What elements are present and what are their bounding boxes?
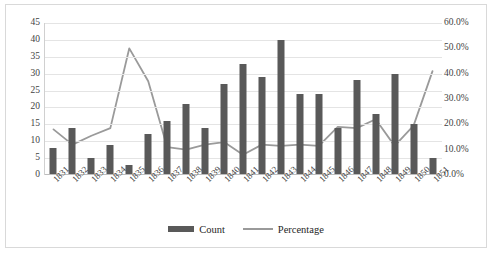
y-axis-right-tick: 40.0% — [444, 69, 469, 79]
bar — [239, 64, 246, 175]
bar-slot — [252, 23, 271, 175]
bar — [391, 74, 398, 175]
bar-slot — [120, 23, 139, 175]
bar — [296, 94, 303, 175]
legend-item-percentage: Percentage — [243, 224, 324, 235]
bar-slot — [44, 23, 63, 175]
bar — [277, 40, 284, 175]
bar-slot — [309, 23, 328, 175]
bar-slot — [423, 23, 442, 175]
bar-slot — [234, 23, 253, 175]
bar — [315, 94, 322, 175]
bar-slot — [366, 23, 385, 175]
bar — [258, 77, 265, 175]
chart-legend: Count Percentage — [6, 221, 486, 237]
legend-label-percentage: Percentage — [278, 224, 324, 235]
bar-slot — [328, 23, 347, 175]
y-axis-right-tick: 30.0% — [444, 94, 469, 104]
bar-slot — [385, 23, 404, 175]
y-axis-left-tick: 40 — [31, 35, 41, 45]
y-axis-left-tick: 0 — [35, 170, 40, 180]
y-axis-right-tick: 20.0% — [444, 119, 469, 129]
bar — [69, 128, 76, 175]
bar-slot — [158, 23, 177, 175]
y-axis-left-tick: 5 — [35, 153, 40, 163]
bar-slot — [101, 23, 120, 175]
bar-slot — [215, 23, 234, 175]
y-axis-left: 051015202530354045 — [6, 5, 44, 247]
bar-slot — [82, 23, 101, 175]
legend-swatch-count-icon — [168, 226, 194, 232]
bar — [145, 134, 152, 175]
plot-area — [44, 23, 442, 175]
bar-slot — [177, 23, 196, 175]
bar — [410, 124, 417, 175]
bar-slot — [196, 23, 215, 175]
bar-slot — [404, 23, 423, 175]
y-axis-left-tick: 25 — [31, 86, 41, 96]
bar — [334, 128, 341, 175]
bar-slot — [139, 23, 158, 175]
x-axis-labels: 1831183218331834183518361837183818391840… — [44, 177, 442, 217]
y-axis-right-tick: 60.0% — [444, 18, 469, 28]
bar-slot — [347, 23, 366, 175]
bar-slot — [271, 23, 290, 175]
chart-container: 051015202530354045 0.0%10.0%20.0%30.0%40… — [5, 4, 487, 248]
bar — [221, 84, 228, 175]
y-axis-right-tick: 50.0% — [444, 43, 469, 53]
legend-item-count: Count — [168, 224, 225, 235]
bar — [202, 128, 209, 175]
y-axis-left-spine — [44, 23, 45, 175]
legend-swatch-percentage-icon — [243, 228, 273, 230]
y-axis-left-tick: 45 — [31, 18, 41, 28]
bar — [372, 114, 379, 175]
bar — [183, 104, 190, 175]
y-axis-right-tick: 10.0% — [444, 145, 469, 155]
bar — [164, 121, 171, 175]
bar-slot — [290, 23, 309, 175]
y-axis-left-tick: 15 — [31, 119, 41, 129]
y-axis-left-tick: 10 — [31, 136, 41, 146]
y-axis-left-tick: 20 — [31, 102, 41, 112]
y-axis-left-tick: 30 — [31, 69, 41, 79]
y-axis-right: 0.0%10.0%20.0%30.0%40.0%50.0%60.0% — [440, 5, 486, 247]
legend-label-count: Count — [199, 224, 225, 235]
bar — [353, 80, 360, 175]
y-axis-left-tick: 35 — [31, 52, 41, 62]
bar-slot — [63, 23, 82, 175]
